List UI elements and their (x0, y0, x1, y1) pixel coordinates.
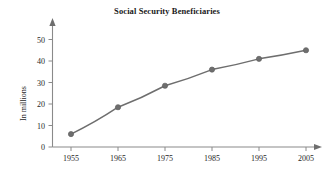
x-tick-label: 1995 (251, 154, 267, 163)
x-tick-label: 1985 (204, 154, 220, 163)
y-tick-label: 40 (37, 57, 45, 66)
chart-figure: Social Security Beneficiaries 0 10 20 30… (0, 0, 334, 172)
data-point-1975 (162, 83, 167, 88)
data-point-2005 (303, 48, 308, 53)
data-point-1985 (209, 67, 214, 72)
chart-plot-area: 0 10 20 30 40 50 In millions 1955 1965 1… (0, 0, 334, 172)
y-axis-ticks (49, 40, 53, 148)
y-axis-arrowhead (49, 18, 55, 26)
data-point-1995 (256, 56, 261, 61)
data-markers (68, 48, 308, 137)
x-tick-label: 2005 (298, 154, 314, 163)
y-tick-label: 0 (41, 143, 45, 152)
x-tick-label: 1955 (63, 154, 79, 163)
y-tick-label: 10 (37, 122, 45, 131)
x-tick-label: 1965 (110, 154, 126, 163)
x-axis-arrowhead (314, 144, 322, 150)
x-tick-label: 1975 (157, 154, 173, 163)
y-axis-tick-labels: 0 10 20 30 40 50 (37, 36, 45, 153)
data-line-beneficiaries (71, 50, 306, 134)
y-tick-label: 50 (37, 36, 45, 45)
y-tick-label: 20 (37, 100, 45, 109)
x-axis-tick-labels: 1955 1965 1975 1985 1995 2005 (63, 154, 314, 163)
data-point-1965 (115, 105, 120, 110)
y-tick-label: 30 (37, 79, 45, 88)
data-point-1955 (68, 132, 73, 137)
y-axis-title: In millions (19, 86, 28, 121)
x-axis-ticks (71, 147, 306, 151)
